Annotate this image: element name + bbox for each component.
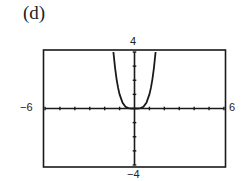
y-min-label: −4 <box>127 169 140 180</box>
x-max-label: 6 <box>229 102 235 113</box>
x-min-label: −6 <box>20 102 33 113</box>
graph-window <box>0 0 249 181</box>
y-max-label: 4 <box>130 36 136 47</box>
